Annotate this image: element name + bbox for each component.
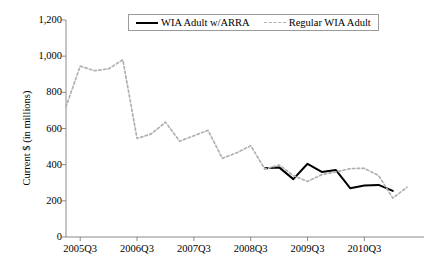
data-series-layer: [66, 60, 407, 198]
legend-line-solid-icon: [136, 22, 158, 24]
legend-entry-regular: Regular WIA Adult: [264, 17, 371, 28]
legend-label-regular: Regular WIA Adult: [289, 17, 371, 28]
legend-entry-arra: WIA Adult w/ARRA: [136, 17, 250, 28]
chart-container: Current $ (in millions) 02004006008001,0…: [0, 0, 434, 276]
plot-area: [0, 0, 434, 276]
chart-legend: WIA Adult w/ARRA Regular WIA Adult: [128, 14, 379, 31]
x-axis-ticks: [80, 237, 364, 241]
y-axis-ticks: [62, 20, 66, 237]
series-line-regular: [66, 60, 407, 198]
axis-lines: [66, 20, 424, 237]
legend-line-dashed-icon: [264, 22, 286, 23]
legend-label-arra: WIA Adult w/ARRA: [161, 17, 250, 28]
